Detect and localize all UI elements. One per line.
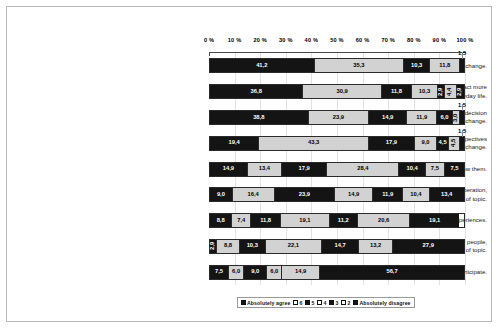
bar-segment[interactable]: 41,2 [210,59,315,72]
bar-segment[interactable]: 4,4 [445,85,456,98]
bar-segment[interactable]: 11,8 [251,214,281,227]
bar-segment[interactable]: 38,8 [210,111,309,124]
legend-item[interactable]: Absolutely agree [241,300,290,306]
bar-segment[interactable]: 14,7 [322,240,359,253]
bar-segment-value: 9,0 [421,140,429,146]
bar-segment-value: 30,9 [337,89,348,95]
stacked-bar[interactable]: 41,235,310,311,81,5 [209,58,465,73]
bar-segment[interactable]: 2,9 [457,85,464,98]
bar-segment-value: 20,6 [378,218,389,224]
bar-segment-value: 11,8 [391,89,402,95]
bar-segment-value: 16,4 [248,192,259,198]
stacked-bar[interactable]: 2,98,810,322,114,713,227,9 [209,239,465,254]
x-axis-labels: 0 %10 %20 %30 %40 %50 %60 %70 %80 %90 %1… [209,37,465,53]
bar-segment[interactable]: 7,5 [210,266,229,279]
bar-segment[interactable]: 16,4 [233,188,275,201]
bar-segment-value: 19,1 [429,218,440,224]
bar-segment[interactable]: 8,8 [217,240,239,253]
stacked-bar[interactable]: 7,56,09,06,014,956,7 [209,265,465,280]
bar-segment[interactable]: 20,6 [358,214,410,227]
bar-segment[interactable]: 9,0 [210,188,233,201]
value-leader-line [462,130,463,137]
bar-segment[interactable]: 14,9 [369,111,407,124]
bar-segment-value: 7,5 [215,269,223,275]
legend-item[interactable]: 4 [317,300,326,306]
x-axis-tick-label: 10 % [228,37,242,43]
bar-segment[interactable]: 23,9 [275,188,336,201]
bar-segment[interactable]: 10,3 [412,85,438,98]
bar-segment[interactable]: 22,1 [266,240,322,253]
bar-segment-value: 14,9 [348,192,359,198]
bar-segment[interactable]: 10,3 [404,59,430,72]
bar-segment[interactable]: 36,8 [210,85,303,98]
legend-item[interactable]: 5 [305,300,314,306]
bar-segment[interactable]: 19,1 [410,214,459,227]
legend-item[interactable]: 6 [293,300,302,306]
bar-segment[interactable]: 11,9 [373,188,403,201]
bar-segment[interactable]: 14,9 [282,266,320,279]
bar-segment[interactable]: 19,4 [210,137,259,150]
stacked-bar[interactable]: 9,016,423,914,911,910,413,4 [209,187,465,202]
bar-segment[interactable]: 9,0 [244,266,267,279]
bar-segment[interactable]: 13,4 [248,163,282,176]
bar-segment[interactable]: 17,9 [282,163,327,176]
bar-segment[interactable]: 11,9 [407,111,437,124]
bar-segment[interactable]: 4,5 [437,137,448,150]
bar-segment[interactable]: 8,8 [210,214,232,227]
bar-segment[interactable]: 43,3 [259,137,369,150]
bar-segment[interactable]: 2,9 [210,240,217,253]
stacked-bar[interactable]: 19,443,317,99,04,54,51,5 [209,136,465,151]
stacked-bar[interactable]: 14,913,417,928,410,47,57,5 [209,162,465,177]
bar-segment-value: 3,0 [453,113,459,121]
bar-segment[interactable]: 23,9 [309,111,370,124]
bar-segment[interactable]: 13,2 [359,240,393,253]
bar-segment[interactable]: 4,5 [449,137,460,150]
bar-segment[interactable]: 19,1 [281,214,330,227]
legend-item[interactable]: Absolutely disagree [353,300,410,306]
bar-segment[interactable]: 13,4 [430,188,464,201]
bar-segment-value: 9,0 [251,269,259,275]
bar-segment[interactable]: 10,3 [240,240,266,253]
bar-segment-value: 22,1 [288,243,299,249]
bar-segment[interactable]: 7,4 [232,214,251,227]
bar-segment[interactable]: 1,5 [460,137,464,150]
bar-segment[interactable]: 10,4 [403,188,429,201]
bar-segment[interactable]: 2,9 [438,85,445,98]
legend-swatch [305,300,310,305]
stacked-bar[interactable]: 38,823,914,911,96,03,01,5 [209,110,465,125]
bar-row: 8,87,411,819,111,220,619,1 [209,213,465,228]
bar-segment[interactable]: 14,9 [210,163,248,176]
bar-segment[interactable]: 11,8 [382,85,412,98]
bar-segment[interactable]: 56,7 [320,266,464,279]
legend-item[interactable]: 3 [329,300,338,306]
bar-segment[interactable]: 6,0 [229,266,244,279]
bar-segment[interactable]: 10,4 [399,163,425,176]
bar-segment[interactable]: 1,5 [460,111,464,124]
legend-swatch [329,300,334,305]
bar-row: 9,016,423,914,911,910,413,4 [209,187,465,202]
x-axis-tick-mark [209,52,210,56]
bar-segment[interactable]: 9,0 [415,137,438,150]
bar-segment[interactable]: 11,2 [330,214,358,227]
bar-segment[interactable]: 1,5 [460,59,464,72]
bar-segment[interactable]: 14,9 [335,188,373,201]
bar-segment[interactable]: 7,5 [445,163,464,176]
bar-row: 41,235,310,311,81,5 [209,58,465,73]
bar-segment[interactable]: 3,0 [453,111,461,124]
x-axis-tick-label: 0 % [204,37,214,43]
stacked-bar[interactable]: 8,87,411,819,111,220,619,1 [209,213,465,228]
bar-segment-value: 10,3 [247,243,258,249]
legend-item[interactable]: 2 [341,300,350,306]
bar-segment-value: 19,1 [299,218,310,224]
bar-segment-value: 8,8 [224,243,232,249]
bar-segment[interactable]: 17,9 [369,137,414,150]
stacked-bar[interactable]: 36,830,911,810,32,94,42,9 [209,84,465,99]
bar-segment[interactable]: 11,8 [430,59,460,72]
bar-segment[interactable]: 35,3 [315,59,405,72]
bar-segment[interactable]: 6,0 [437,111,452,124]
bar-segment[interactable]: 6,0 [267,266,282,279]
bar-segment[interactable]: 27,9 [393,240,464,253]
bar-segment[interactable]: 30,9 [303,85,381,98]
bar-segment[interactable]: 28,4 [327,163,399,176]
bar-segment[interactable]: 7,5 [426,163,445,176]
